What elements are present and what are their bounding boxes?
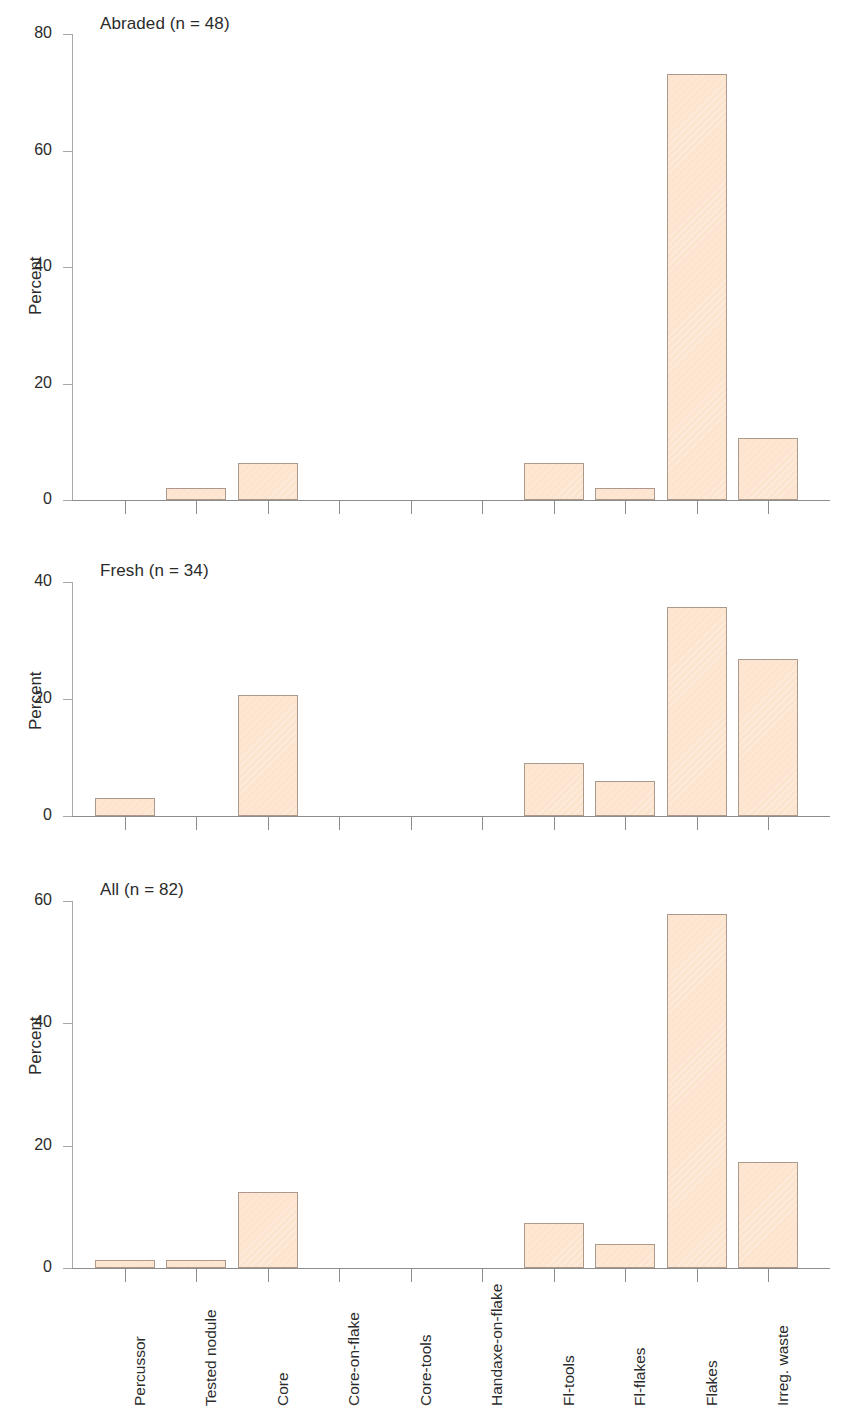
y-axis-line <box>72 582 73 816</box>
y-axis-tick <box>63 267 72 268</box>
y-axis-tick <box>63 901 72 902</box>
bar <box>667 914 727 1268</box>
x-axis-category-label: Flakes <box>703 1360 721 1406</box>
x-axis-tick <box>125 501 126 514</box>
x-axis-line <box>72 1268 830 1269</box>
y-axis-tick <box>63 500 72 501</box>
bar <box>667 607 727 816</box>
bar <box>238 1192 298 1268</box>
y-axis-tick-label: 20 <box>6 1136 52 1154</box>
x-axis-category-label: Core-on-flake <box>345 1312 363 1406</box>
x-axis-category-label: Core <box>274 1372 292 1406</box>
bar <box>238 695 298 816</box>
x-axis-tick <box>125 817 126 830</box>
x-axis-tick <box>268 817 269 830</box>
figure-panel-chart: Abraded (n = 48)Percent020406080 Fresh (… <box>0 0 842 1414</box>
x-axis-category-label: Percussor <box>131 1336 149 1406</box>
x-axis-tick <box>339 817 340 830</box>
chart-panel-all: All (n = 82)Percent0204060 <box>0 860 842 1280</box>
bar <box>524 763 584 816</box>
x-axis-tick <box>339 501 340 514</box>
x-axis-tick <box>768 817 769 830</box>
x-axis-tick <box>554 817 555 830</box>
y-axis-tick-label: 40 <box>6 1013 52 1031</box>
bar <box>738 1162 798 1268</box>
y-axis-tick-label: 0 <box>6 806 52 824</box>
x-axis-category-label: Core-tools <box>417 1335 435 1407</box>
y-axis-tick <box>63 34 72 35</box>
bar <box>166 1260 226 1268</box>
x-axis-category-label: Fl-flakes <box>631 1347 649 1406</box>
x-axis-line <box>72 816 830 817</box>
x-axis-tick <box>554 501 555 514</box>
y-axis-tick <box>63 1146 72 1147</box>
x-axis-category-label: Handaxe-on-flake <box>488 1284 506 1406</box>
bar <box>738 659 798 816</box>
bar <box>95 798 155 816</box>
y-axis-tick <box>63 1023 72 1024</box>
panel-title: All (n = 82) <box>100 880 184 900</box>
y-axis-line <box>72 901 73 1268</box>
bar <box>595 488 655 500</box>
x-axis-tick <box>482 501 483 514</box>
y-axis-tick-label: 80 <box>6 24 52 42</box>
x-axis-tick <box>697 501 698 514</box>
x-axis-category-label: Tested nodule <box>202 1309 220 1406</box>
y-axis-tick-label: 60 <box>6 891 52 909</box>
y-axis-tick-label: 40 <box>6 572 52 590</box>
bar <box>95 1260 155 1268</box>
y-axis-tick-label: 0 <box>6 1258 52 1276</box>
x-axis-line <box>72 500 830 501</box>
y-axis-tick-label: 60 <box>6 141 52 159</box>
x-axis-category-label: Fl-tools <box>560 1355 578 1406</box>
x-axis-tick <box>625 501 626 514</box>
panel-title: Abraded (n = 48) <box>100 14 230 34</box>
bar <box>595 781 655 816</box>
bar <box>738 438 798 500</box>
y-axis-tick-label: 20 <box>6 374 52 392</box>
y-axis-tick-label: 40 <box>6 257 52 275</box>
x-axis-category-label: Irreg. waste <box>774 1325 792 1406</box>
chart-panel-fresh: Fresh (n = 34)Percent02040 <box>0 545 842 855</box>
bar <box>667 74 727 500</box>
x-axis-tick <box>625 817 626 830</box>
x-axis-category-labels: PercussorTested noduleCoreCore-on-flakeC… <box>0 1280 842 1414</box>
x-axis-tick <box>482 817 483 830</box>
x-axis-tick <box>768 501 769 514</box>
y-axis-tick <box>63 151 72 152</box>
y-axis-tick-label: 0 <box>6 490 52 508</box>
bar <box>595 1244 655 1268</box>
bar <box>238 463 298 500</box>
y-axis-tick <box>63 1268 72 1269</box>
bar <box>524 463 584 500</box>
y-axis-tick <box>63 582 72 583</box>
x-axis-tick <box>411 501 412 514</box>
x-axis-tick <box>196 501 197 514</box>
bar <box>524 1223 584 1268</box>
bar <box>166 488 226 500</box>
y-axis-tick <box>63 816 72 817</box>
y-axis-tick <box>63 384 72 385</box>
y-axis-line <box>72 34 73 500</box>
panel-title: Fresh (n = 34) <box>100 561 209 581</box>
x-axis-tick <box>411 817 412 830</box>
y-axis-tick-label: 20 <box>6 689 52 707</box>
x-axis-tick <box>697 817 698 830</box>
x-axis-tick <box>196 817 197 830</box>
y-axis-tick <box>63 699 72 700</box>
chart-panel-abraded: Abraded (n = 48)Percent020406080 <box>0 0 842 540</box>
x-axis-tick <box>268 501 269 514</box>
